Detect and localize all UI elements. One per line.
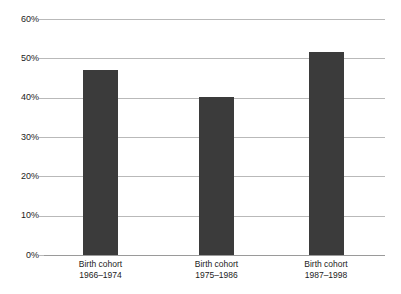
x-axis-label-line2: 1987–1998 (271, 270, 381, 281)
y-axis-tick-label: 20% (0, 172, 39, 181)
bar (199, 97, 234, 256)
y-axis-tick-label: 60% (0, 15, 39, 24)
x-axis-category-label: Birth cohort1987–1998 (271, 259, 381, 281)
plot-area (44, 19, 385, 255)
y-axis-tick-label: 40% (0, 93, 39, 102)
axis-baseline (44, 255, 385, 256)
bar (83, 70, 118, 255)
y-axis-tick-label: 50% (0, 54, 39, 63)
x-axis-label-line2: 1975–1986 (162, 270, 272, 281)
x-axis-label-line2: 1966–1974 (46, 270, 156, 281)
y-axis-tick-label: 10% (0, 211, 39, 220)
x-axis-label-line1: Birth cohort (162, 259, 272, 270)
gridline (44, 19, 385, 20)
x-axis-label-line1: Birth cohort (271, 259, 381, 270)
x-axis-category-label: Birth cohort1975–1986 (162, 259, 272, 281)
x-axis-label-line1: Birth cohort (46, 259, 156, 270)
y-axis-tick-label: 0% (0, 251, 39, 260)
x-axis-category-label: Birth cohort1966–1974 (46, 259, 156, 281)
bar (309, 52, 344, 255)
bar-chart: 0%10%20%30%40%50%60% Birth cohort1966–19… (0, 0, 401, 294)
y-axis-tick-label: 30% (0, 133, 39, 142)
